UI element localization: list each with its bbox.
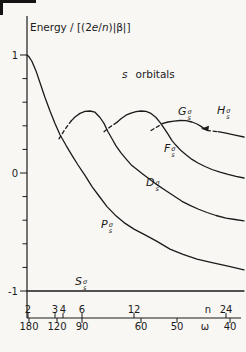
x-tick-label-omega-60: 60	[135, 321, 148, 332]
curve-G_s_sigma	[163, 121, 205, 130]
x-tick-label-n-2: 2	[25, 304, 31, 315]
y-axis-title: Energy / [(2e/n)|β|]	[30, 21, 131, 33]
figure-s-orbitals-energy-diagram: Energy / [(2e/n)|β|] sorbitals 10-1 2346…	[0, 0, 246, 352]
energy-curves	[27, 55, 244, 291]
x-axis-name-omega: ω	[201, 321, 209, 332]
x-tick-label-n-6: 6	[79, 304, 85, 315]
x-tick-label-n-12: 12	[128, 304, 141, 315]
y-tick-label--1: -1	[8, 286, 18, 297]
x-tick-label-omega-40: 40	[224, 321, 237, 332]
curve-H_s_sigma-dashed	[207, 130, 218, 131]
x-tick-label-n-3: 3	[52, 304, 58, 315]
axis-ticks	[20, 55, 230, 323]
curve-D_s_sigma-dashed	[59, 121, 71, 139]
label-H-s-sigma: Hσs	[217, 104, 230, 120]
label-G-s-sigma: Gσs	[178, 105, 192, 121]
x-tick-label-omega-90: 90	[76, 321, 89, 332]
x-tick-label-omega-50: 50	[171, 321, 184, 332]
curve-H_s_sigma	[218, 132, 244, 137]
label-D-s-sigma: Dσs	[146, 176, 160, 192]
label-P-s-sigma: Pσs	[101, 218, 113, 234]
x-axis-name-n: n	[205, 304, 211, 315]
label-F-s-sigma: Fσs	[164, 142, 175, 158]
x-tick-label-n-24: 24	[220, 304, 233, 315]
y-tick-label-1: 1	[12, 50, 18, 61]
x-tick-label-omega-120: 120	[47, 321, 66, 332]
x-tick-label-omega-180: 180	[19, 321, 38, 332]
curve-D_s_sigma	[71, 111, 244, 221]
curve-G_s_sigma-dashed	[151, 123, 163, 130]
plot-canvas	[0, 0, 246, 352]
y-tick-label-0: 0	[12, 168, 18, 179]
label-S-s-sigma: Sσs	[75, 275, 87, 291]
annotation-s-orbitals: sorbitals	[122, 68, 175, 80]
x-tick-label-n-4: 4	[60, 304, 66, 315]
curve-P_s_sigma	[27, 55, 244, 270]
